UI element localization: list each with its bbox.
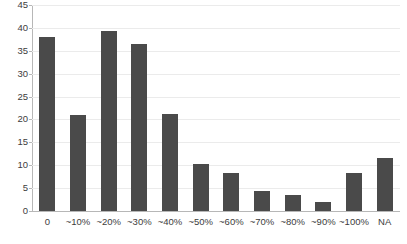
- bar: [39, 37, 55, 211]
- y-axis-tick-label: 10: [2, 160, 28, 170]
- y-axis-tick-label: 5: [2, 183, 28, 193]
- x-axis-tick-label: NA: [369, 216, 400, 227]
- gridline: [32, 211, 400, 212]
- y-axis-tick-mark: [29, 97, 32, 98]
- y-axis-tick-mark: [29, 119, 32, 120]
- gridline: [32, 188, 400, 189]
- bar: [223, 173, 239, 211]
- y-axis-tick-mark: [29, 74, 32, 75]
- y-axis-tick-label: 35: [2, 46, 28, 56]
- y-axis-tick-label: 45: [2, 0, 28, 10]
- gridline: [32, 165, 400, 166]
- y-axis-tick-label: 15: [2, 137, 28, 147]
- bar: [193, 164, 209, 211]
- x-axis-tick-label: ~80%: [277, 216, 308, 227]
- y-axis-tick-mark: [29, 51, 32, 52]
- bar-chart: 051015202530354045 0~10%~20%~30%~40%~50%…: [0, 0, 407, 244]
- y-axis-tick-mark: [29, 142, 32, 143]
- bar: [254, 191, 270, 211]
- bar: [346, 173, 362, 211]
- gridline: [32, 74, 400, 75]
- bar: [285, 195, 301, 211]
- bar: [315, 202, 331, 211]
- y-axis-tick-label: 20: [2, 114, 28, 124]
- gridline: [32, 97, 400, 98]
- y-axis-tick-mark: [29, 28, 32, 29]
- gridline: [32, 142, 400, 143]
- bar: [377, 158, 393, 211]
- x-axis-tick-label: ~60%: [216, 216, 247, 227]
- bar: [101, 31, 117, 211]
- y-axis-tick-label: 40: [2, 23, 28, 33]
- y-axis-tick-mark: [29, 5, 32, 6]
- y-axis-tick-mark: [29, 211, 32, 212]
- y-axis-tick-label: 30: [2, 69, 28, 79]
- gridline: [32, 28, 400, 29]
- y-axis-tick-mark: [29, 188, 32, 189]
- x-axis-tick-label: ~10%: [63, 216, 94, 227]
- bar: [70, 115, 86, 211]
- bar: [162, 114, 178, 211]
- x-axis-tick-label: ~40%: [155, 216, 186, 227]
- x-axis-tick-label: ~100%: [339, 216, 370, 227]
- bar: [131, 44, 147, 211]
- y-axis-tick-label: 0: [2, 206, 28, 216]
- gridline: [32, 51, 400, 52]
- x-axis-tick-label: ~20%: [93, 216, 124, 227]
- gridline: [32, 119, 400, 120]
- x-axis-tick-label: ~70%: [247, 216, 278, 227]
- y-axis-tick-label: 25: [2, 92, 28, 102]
- y-axis-tick-mark: [29, 165, 32, 166]
- x-axis-tick-label: ~50%: [185, 216, 216, 227]
- x-axis-tick-label: ~30%: [124, 216, 155, 227]
- x-axis-tick-label: ~90%: [308, 216, 339, 227]
- gridline: [32, 5, 400, 6]
- x-axis-tick-label: 0: [32, 216, 63, 227]
- plot-area: [32, 5, 400, 211]
